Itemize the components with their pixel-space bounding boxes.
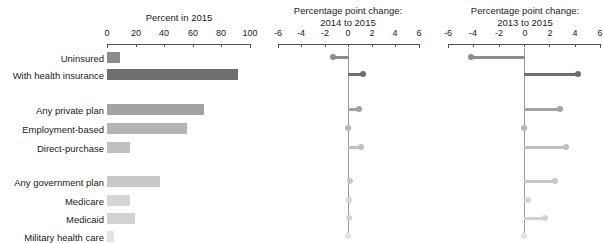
- row-label-uninsured: Uninsured: [61, 53, 104, 64]
- axis-tick-4-2014: [395, 44, 396, 47]
- lollipop-stem-any-private-2013: [524, 108, 560, 111]
- lollipop-dot-medicaid-2014: [346, 215, 352, 221]
- panel-title-change-2014-2015: Percentage point change: 2014 to 2015: [273, 5, 423, 28]
- lollipop-dot-medicare-2013: [525, 197, 531, 203]
- row-label-medicaid: Medicaid: [66, 214, 104, 225]
- tick-label-p60: 60: [181, 28, 205, 38]
- lollipop-dot-uninsured-2013: [468, 54, 474, 60]
- panel-title-change-2013-2015: Percentage point change: 2013 to 2015: [449, 5, 601, 28]
- axis-line-percent-2015: [107, 44, 251, 45]
- tick-label-p80: 80: [209, 28, 233, 38]
- bar-employment-based: [107, 123, 187, 134]
- lollipop-dot-any-private-2013: [557, 106, 563, 112]
- axis-tick-m6-2014: [278, 44, 279, 48]
- axis-tick-m4-2014: [301, 44, 302, 47]
- lollipop-dot-direct-purchase-2013: [563, 144, 569, 150]
- tick-label-4-2014: 4: [383, 28, 407, 38]
- lollipop-dot-medicare-2014: [346, 197, 352, 203]
- tick-label-m4-2013: -4: [461, 28, 485, 38]
- row-label-employment-based: Employment-based: [22, 124, 104, 135]
- lollipop-dot-employment-2014: [345, 125, 351, 131]
- axis-tick-0-2014: [348, 44, 349, 47]
- tick-label-m6-2013: -6: [436, 28, 460, 38]
- tick-label-p0: 0: [95, 28, 119, 38]
- panel-title-change-2014-2015-line1: Percentage point change:: [294, 5, 402, 16]
- lollipop-stem-uninsured-2013: [471, 56, 525, 59]
- tick-label-0-2014: 0: [336, 28, 360, 38]
- tick-label-2-2013: 2: [538, 28, 562, 38]
- panel-title-percent-2015: Percent in 2015: [104, 12, 254, 24]
- row-label-any-government-plan: Any government plan: [14, 177, 104, 188]
- panel-title-percent-2015-text: Percent in 2015: [146, 12, 213, 23]
- row-label-medicare: Medicare: [65, 196, 104, 207]
- row-label-any-private-plan: Any private plan: [36, 105, 104, 116]
- bar-direct-purchase: [107, 142, 130, 153]
- panel-title-change-2013-2015-line2: 2013 to 2015: [497, 17, 552, 28]
- row-label-with-health-insurance: With health insurance: [13, 70, 104, 81]
- tick-label-2-2014: 2: [360, 28, 384, 38]
- row-label-direct-purchase: Direct-purchase: [37, 143, 104, 154]
- axis-tick-0-2013: [524, 44, 525, 47]
- axis-tick-4-2013: [575, 44, 576, 47]
- axis-tick-6-2014: [419, 44, 420, 48]
- axis-tick-p80: [221, 44, 222, 47]
- lollipop-dot-any-private-2014: [356, 106, 362, 112]
- axis-tick-2-2014: [372, 44, 373, 47]
- lollipop-dot-military-2014: [345, 233, 351, 239]
- axis-tick-m2-2013: [499, 44, 500, 47]
- lollipop-dot-uninsured-2014: [330, 54, 336, 60]
- axis-tick-p0: [107, 44, 108, 48]
- lollipop-dot-employment-2013: [521, 125, 527, 131]
- panel-title-change-2013-2015-line1: Percentage point change:: [471, 5, 579, 16]
- bar-with-health-insurance: [107, 69, 238, 80]
- zero-line-2013-2015: [524, 48, 525, 238]
- bar-medicaid: [107, 213, 135, 224]
- tick-label-m6-2014: -6: [266, 28, 290, 38]
- panel-title-change-2014-2015-line2: 2014 to 2015: [320, 17, 375, 28]
- category-label-column: Uninsured With health insurance Any priv…: [0, 0, 104, 242]
- bar-medicare: [107, 195, 130, 206]
- axis-tick-p40: [164, 44, 165, 47]
- tick-label-0-2013: 0: [513, 28, 537, 38]
- axis-tick-m4-2013: [473, 44, 474, 47]
- bar-any-government-plan: [107, 176, 160, 187]
- axis-tick-p20: [136, 44, 137, 47]
- tick-label-p20: 20: [124, 28, 148, 38]
- tick-label-p100: 100: [238, 28, 262, 38]
- lollipop-dot-any-government-2013: [552, 178, 558, 184]
- lollipop-stem-with-insurance-2013: [524, 73, 578, 76]
- axis-tick-p60: [193, 44, 194, 47]
- axis-tick-m6-2013: [448, 44, 449, 48]
- lollipop-dot-medicaid-2013: [542, 215, 548, 221]
- lollipop-dot-direct-purchase-2014: [358, 144, 364, 150]
- axis-tick-m2-2014: [325, 44, 326, 47]
- row-label-military-health-care: Military health care: [24, 232, 104, 243]
- axis-tick-p100: [250, 44, 251, 48]
- tick-label-6-2014: 6: [407, 28, 431, 38]
- tick-label-m2-2014: -2: [313, 28, 337, 38]
- zero-line-2014-2015: [348, 48, 349, 238]
- axis-tick-6-2013: [600, 44, 601, 48]
- bar-military-health-care: [107, 231, 114, 242]
- lollipop-dot-any-government-2014: [347, 178, 353, 184]
- lollipop-dot-military-2013: [521, 233, 527, 239]
- bar-any-private-plan: [107, 104, 204, 115]
- bar-uninsured: [107, 52, 120, 63]
- tick-label-4-2013: 4: [563, 28, 587, 38]
- tick-label-p40: 40: [152, 28, 176, 38]
- lollipop-stem-any-government-2013: [524, 180, 555, 183]
- lollipop-dot-with-insurance-2014: [360, 71, 366, 77]
- tick-label-m2-2013: -2: [487, 28, 511, 38]
- tick-label-m4-2014: -4: [289, 28, 313, 38]
- lollipop-stem-direct-purchase-2013: [524, 146, 566, 149]
- axis-tick-2-2013: [549, 44, 550, 47]
- lollipop-dot-with-insurance-2013: [575, 71, 581, 77]
- tick-label-6-2013: 6: [588, 28, 603, 38]
